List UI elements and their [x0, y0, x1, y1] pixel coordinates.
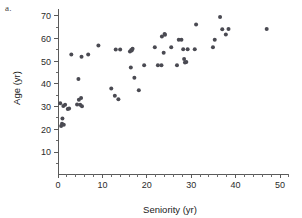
plot-canvas: 10203040506070 01020304050 Seniority (yr…	[0, 0, 302, 218]
data-point	[218, 15, 222, 19]
data-point	[62, 123, 66, 127]
scatter-plot-figure: a. 10203040506070 01020304050 Seniority …	[0, 0, 302, 218]
data-point	[116, 97, 120, 101]
data-point	[58, 101, 62, 105]
data-point	[76, 77, 80, 81]
data-point	[227, 27, 231, 31]
data-point	[156, 63, 160, 67]
data-point	[220, 27, 224, 31]
y-tick-label: 20	[41, 125, 51, 135]
data-point	[181, 47, 185, 51]
y-tick-label: 50	[41, 57, 51, 67]
x-axis: 01020304050	[55, 174, 288, 190]
x-axis-title: Seniority (yr)	[143, 204, 197, 215]
data-point	[69, 53, 73, 57]
data-point	[194, 23, 198, 27]
data-point	[211, 45, 215, 49]
data-point	[224, 33, 228, 37]
data-point	[159, 63, 163, 67]
y-axis-title: Age (yr)	[11, 71, 22, 105]
x-tick-label: 30	[186, 180, 196, 190]
data-point	[142, 63, 146, 67]
x-tick-label: 20	[142, 180, 152, 190]
data-point	[79, 96, 83, 100]
data-point	[129, 65, 133, 69]
data-point	[86, 53, 90, 57]
data-point	[265, 27, 269, 31]
data-point	[80, 55, 84, 59]
x-tick-label: 0	[55, 180, 60, 190]
data-point	[132, 76, 136, 80]
data-point	[169, 45, 173, 49]
data-points-layer	[58, 15, 268, 128]
data-point	[63, 103, 67, 107]
x-tick-label: 40	[231, 180, 241, 190]
data-point	[193, 47, 197, 51]
data-point	[179, 38, 183, 42]
data-point	[162, 51, 166, 55]
data-point	[137, 88, 141, 92]
data-point	[184, 60, 188, 64]
data-point	[118, 48, 122, 52]
y-axis: 10203040506070	[41, 9, 58, 174]
y-tick-label: 10	[41, 147, 51, 157]
data-point	[163, 33, 167, 37]
data-point	[109, 87, 113, 91]
y-tick-label: 60	[41, 34, 51, 44]
data-point	[213, 38, 217, 42]
data-point	[60, 116, 64, 120]
x-tick-label: 50	[275, 180, 285, 190]
y-tick-label: 40	[41, 79, 51, 89]
data-point	[80, 104, 84, 108]
data-point	[186, 47, 190, 51]
x-tick-label: 10	[97, 180, 107, 190]
data-point	[114, 48, 118, 52]
y-tick-label: 30	[41, 102, 51, 112]
data-point	[96, 43, 100, 47]
data-point	[113, 94, 117, 98]
data-point	[153, 45, 157, 49]
data-point	[175, 63, 179, 67]
y-tick-label: 70	[41, 11, 51, 21]
data-point	[131, 47, 135, 51]
data-point	[67, 106, 71, 110]
